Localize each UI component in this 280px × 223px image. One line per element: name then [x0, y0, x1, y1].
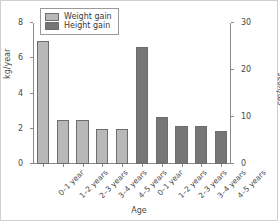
x-axis-tick	[63, 164, 64, 167]
plot-area: 024680102030	[33, 23, 231, 164]
bar	[96, 129, 108, 164]
x-axis-title: Age	[1, 206, 277, 215]
y-axis-right-tick-label: 20	[241, 66, 251, 74]
y-axis-right-tick-label: 0	[241, 160, 246, 168]
legend-label-height-gain: Height gain	[64, 22, 110, 30]
y-axis-left-tick	[30, 22, 33, 23]
y-axis-left-tick	[30, 57, 33, 58]
y-axis-left-tick-label: 6	[18, 54, 23, 62]
y-axis-right-tick-label: 30	[241, 19, 251, 27]
y-axis-right-tick-label: 10	[241, 113, 251, 121]
bar	[136, 47, 148, 165]
legend-swatch-weight-gain	[45, 13, 59, 21]
legend-item-height-gain: Height gain	[45, 22, 112, 30]
bar	[116, 129, 128, 164]
x-axis-tick	[221, 164, 222, 167]
bar	[76, 120, 88, 164]
bar	[195, 126, 207, 164]
bar	[156, 117, 168, 164]
y-axis-left-line	[33, 23, 34, 164]
legend-swatch-height-gain	[45, 22, 59, 30]
y-axis-left-tick	[30, 128, 33, 129]
bar	[215, 131, 227, 164]
y-axis-right-title: cm/year	[276, 73, 280, 106]
bar	[37, 41, 49, 164]
y-axis-left-tick	[30, 93, 33, 94]
x-axis-tick	[83, 164, 84, 167]
y-axis-right-tick	[231, 69, 234, 70]
chart-figure: Weight gain Height gain kg/year cm/year …	[0, 0, 278, 221]
y-axis-right-tick	[231, 163, 234, 164]
y-axis-left-tick-label: 2	[18, 125, 23, 133]
y-axis-left-tick-label: 0	[18, 160, 23, 168]
x-axis-tick	[142, 164, 143, 167]
chart-legend: Weight gain Height gain	[40, 8, 119, 35]
x-axis-tick	[43, 164, 44, 167]
bar	[57, 120, 69, 164]
y-axis-right-line	[230, 23, 231, 164]
y-axis-right-tick	[231, 22, 234, 23]
legend-item-weight-gain: Weight gain	[45, 13, 112, 21]
x-axis-tick	[122, 164, 123, 167]
y-axis-right-tick	[231, 116, 234, 117]
y-axis-left-title: kg/year	[3, 49, 12, 79]
legend-label-weight-gain: Weight gain	[64, 13, 112, 21]
y-axis-left-tick-label: 4	[18, 90, 23, 98]
y-axis-left-tick-label: 8	[18, 19, 23, 27]
bar	[175, 126, 187, 164]
y-axis-left-tick	[30, 163, 33, 164]
x-axis-tick	[182, 164, 183, 167]
